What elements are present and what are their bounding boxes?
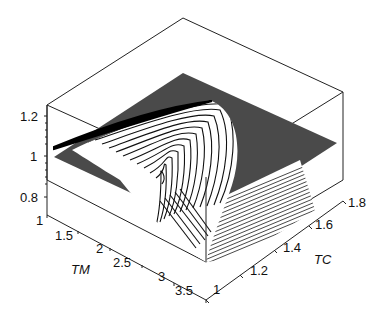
tm-tick-label: 3.5	[175, 283, 193, 298]
z-tick-label: 1.2	[20, 109, 38, 124]
z-axis	[44, 105, 47, 215]
tc-tick-label: 1.2	[250, 263, 268, 278]
tc-axis-title: TC	[314, 252, 332, 267]
tc-tick-label: 1	[213, 282, 220, 297]
tm-tick-label: 1.5	[55, 228, 73, 243]
tm-tick-label: 2	[96, 241, 103, 256]
tm-tick-label: 1	[36, 213, 43, 228]
z-tick-label: 1	[30, 149, 37, 164]
tm-tick-label: 2.5	[113, 255, 131, 270]
3d-surface-plot: 1.2 1 0.8 1 1.5 2 2.5 3 3.5 TM 1 1.2 1.4…	[0, 0, 385, 311]
tm-tick-label: 3	[158, 269, 165, 284]
tm-axis-title: TM	[71, 262, 90, 277]
tc-tick-label: 1.8	[348, 195, 366, 210]
tc-tick-label: 1.6	[315, 217, 333, 232]
z-tick-label: 0.8	[20, 190, 38, 205]
tc-tick-label: 1.4	[283, 240, 301, 255]
